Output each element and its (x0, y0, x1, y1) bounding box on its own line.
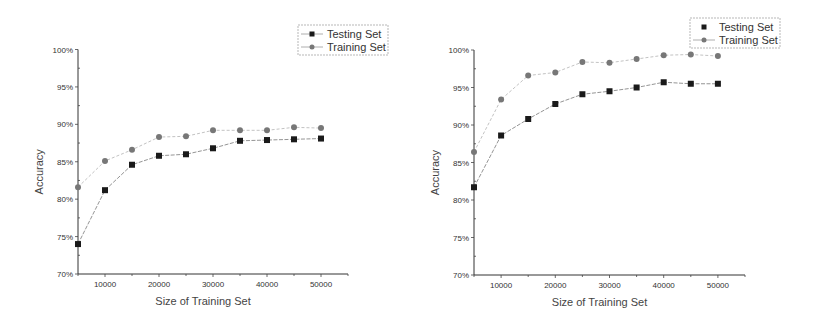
data-point (715, 81, 721, 87)
y-tick-label: 80% (453, 196, 469, 205)
series-testing-set (75, 136, 324, 248)
series-training-set (471, 52, 721, 156)
data-point (607, 88, 613, 94)
y-tick-label: 90% (453, 121, 469, 130)
y-tick-label: 100% (53, 46, 73, 55)
y-tick-label: 80% (57, 195, 73, 204)
series-testing-set (471, 79, 721, 190)
x-axis-title: Size of Training Set (552, 296, 647, 308)
legend-label: Training Set (327, 41, 386, 53)
data-point (498, 133, 504, 139)
data-point (264, 127, 270, 133)
legend: Testing SetTraining Set (690, 18, 780, 48)
data-point (579, 91, 585, 97)
data-point (661, 79, 667, 85)
y-tick-label: 75% (453, 234, 469, 243)
data-point (75, 184, 81, 190)
y-tick-label: 70% (453, 271, 469, 280)
data-point (102, 187, 108, 193)
legend-label: Testing Set (327, 28, 381, 40)
data-point (688, 52, 694, 58)
y-tick-label: 70% (57, 270, 73, 279)
charts-canvas: 70%75%80%85%90%95%100%100002000030000400… (0, 0, 815, 330)
chart-1: 70%75%80%85%90%95%100%100002000030000400… (33, 25, 388, 307)
legend-square-icon (702, 25, 707, 30)
x-tick-label: 20000 (544, 281, 567, 290)
data-point (237, 138, 243, 144)
legend: Testing SetTraining Set (298, 25, 388, 55)
data-point (471, 149, 477, 155)
data-point (156, 153, 162, 159)
data-point (318, 125, 324, 131)
data-point (471, 184, 477, 190)
data-point (156, 134, 162, 140)
y-axis-title: Accuracy (429, 149, 441, 195)
data-point (552, 101, 558, 107)
data-point (318, 136, 324, 142)
data-point (498, 97, 504, 103)
legend-label: Testing Set (719, 21, 773, 33)
data-point (291, 124, 297, 130)
data-point (75, 241, 81, 247)
data-point (129, 162, 135, 168)
accuracy-charts: 70%75%80%85%90%95%100%100002000030000400… (0, 0, 815, 330)
data-point (715, 53, 721, 59)
data-point (210, 145, 216, 151)
y-tick-label: 75% (57, 233, 73, 242)
y-tick-label: 85% (453, 159, 469, 168)
legend-circle-icon (310, 45, 315, 50)
data-point (183, 133, 189, 139)
x-tick-label: 40000 (653, 281, 676, 290)
x-tick-label: 20000 (148, 280, 171, 289)
data-point (688, 81, 694, 87)
y-tick-label: 90% (57, 120, 73, 129)
y-tick-label: 100% (449, 46, 469, 55)
x-tick-label: 30000 (202, 280, 225, 289)
data-point (634, 56, 640, 62)
x-tick-label: 50000 (310, 280, 333, 289)
x-tick-label: 10000 (490, 281, 513, 290)
series-training-set (75, 124, 324, 190)
data-point (661, 52, 667, 58)
y-tick-label: 95% (57, 83, 73, 92)
data-point (237, 127, 243, 133)
data-point (183, 151, 189, 157)
data-point (291, 136, 297, 142)
x-tick-label: 30000 (598, 281, 621, 290)
legend-square-icon (310, 32, 315, 37)
data-point (264, 137, 270, 143)
data-point (129, 147, 135, 153)
y-axis-title: Accuracy (33, 149, 45, 195)
data-point (607, 60, 613, 66)
y-tick-label: 95% (453, 84, 469, 93)
x-tick-label: 40000 (256, 280, 279, 289)
data-point (525, 73, 531, 79)
y-tick-label: 85% (57, 158, 73, 167)
x-tick-label: 10000 (94, 280, 117, 289)
data-point (634, 85, 640, 91)
x-tick-label: 50000 (707, 281, 730, 290)
legend-circle-icon (702, 38, 707, 43)
chart-2: 70%75%80%85%90%95%100%100002000030000400… (429, 18, 780, 308)
data-point (102, 158, 108, 164)
data-point (210, 127, 216, 133)
data-point (552, 70, 558, 76)
x-axis-title: Size of Training Set (155, 295, 250, 307)
legend-label: Training Set (719, 34, 778, 46)
data-point (579, 59, 585, 65)
data-point (525, 116, 531, 122)
